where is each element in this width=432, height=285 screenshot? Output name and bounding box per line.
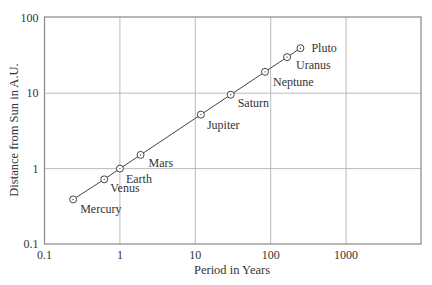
x-tick-label: 0.1 [37,248,52,262]
x-tick-label: 1000 [334,248,358,262]
point-label-pluto: Pluto [311,41,336,55]
point-label-neptune: Neptune [273,75,314,89]
point-label-earth: Earth [126,172,152,186]
x-tick-label: 100 [262,248,280,262]
y-tick-label: 10 [27,86,39,100]
data-point-dot [286,56,287,57]
point-label-mercury: Mercury [80,202,121,216]
data-point-dot [72,199,73,200]
y-tick-label: 1 [33,162,39,176]
point-label-jupiter: Jupiter [207,118,240,132]
point-label-mars: Mars [149,156,174,170]
x-tick-label: 1 [117,248,123,262]
point-label-saturn: Saturn [238,96,269,110]
log-log-chart: 0.111010010000.1110100Period in YearsDis… [0,0,432,285]
x-tick-label: 10 [189,248,201,262]
data-point-dot [300,48,301,49]
point-label-uranus: Uranus [296,58,331,72]
y-axis-label: Distance from Sun in A.U. [7,63,21,196]
data-point-dot [104,179,105,180]
y-tick-label: 100 [21,11,39,25]
data-point-dot [140,154,141,155]
data-point-dot [200,114,201,115]
y-tick-label: 0.1 [24,237,39,251]
x-axis-label: Period in Years [194,263,270,277]
data-point-dot [230,94,231,95]
data-point-dot [119,168,120,169]
data-point-dot [264,71,265,72]
